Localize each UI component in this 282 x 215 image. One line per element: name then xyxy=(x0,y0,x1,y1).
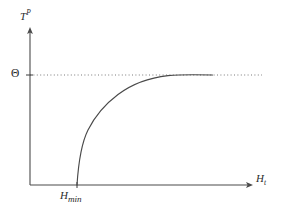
production-curve xyxy=(77,75,213,185)
x-axis-label: Ht xyxy=(256,173,266,184)
x-axis-tick-label-hmin: Hmin xyxy=(60,190,82,204)
plot-canvas xyxy=(0,0,282,215)
x-axis-label-subscript: t xyxy=(264,178,266,187)
x-axis-tick-label-subscript: min xyxy=(68,194,82,204)
y-axis-label: TP xyxy=(20,11,31,22)
y-axis-label-superscript: P xyxy=(26,8,31,17)
figure-container: TP Ht Θ Hmin xyxy=(0,0,282,215)
y-axis-tick-label-theta: Θ xyxy=(11,68,19,80)
x-axis-label-main: H xyxy=(256,172,264,184)
x-axis-tick-label-main: H xyxy=(60,189,68,201)
